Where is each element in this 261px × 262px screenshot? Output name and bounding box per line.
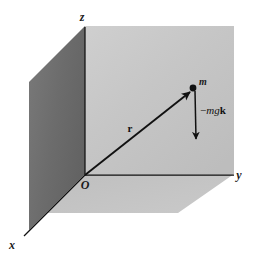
weight-force-arrow: [195, 91, 196, 139]
yz-wall-plane: [85, 26, 234, 174]
physics-figure: z y x O r m −mgk: [0, 0, 261, 262]
force-label-k-unit-vector: k: [220, 104, 227, 116]
force-label-mg: mg: [206, 104, 220, 116]
mass-point-marker: [190, 85, 197, 92]
origin-label: O: [81, 178, 90, 192]
z-axis-label: z: [79, 10, 85, 24]
x-axis-label: x: [8, 238, 15, 252]
position-vector-label: r: [128, 122, 133, 134]
mass-label: m: [199, 76, 207, 87]
y-axis-label: y: [234, 168, 242, 182]
weight-force-label: −mgk: [200, 104, 227, 116]
figure-canvas: z y x O r m −mgk: [0, 0, 261, 262]
